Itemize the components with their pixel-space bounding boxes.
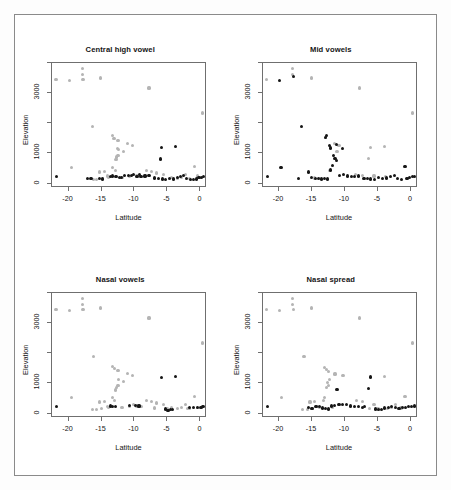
- data-point-absent: [113, 399, 116, 402]
- x-tick-label: -15: [299, 194, 323, 203]
- x-tick-mark: [311, 187, 312, 191]
- plot-area: [51, 62, 206, 187]
- panel-title: Nasal spread: [226, 275, 437, 284]
- data-point-absent: [103, 170, 106, 173]
- y-tick-mark: [47, 183, 51, 184]
- y-axis-label: Elevation: [232, 344, 241, 374]
- x-axis-label: Latitude: [262, 213, 417, 222]
- data-point-absent: [201, 341, 204, 344]
- x-tick-mark: [410, 187, 411, 191]
- data-point-absent: [145, 169, 148, 172]
- data-point-absent: [68, 309, 71, 312]
- data-point-absent: [372, 403, 375, 406]
- y-tick-mark: [47, 292, 51, 293]
- data-point-absent: [92, 355, 95, 358]
- data-point-present: [266, 175, 269, 178]
- data-point-absent: [98, 400, 101, 403]
- data-point-absent: [91, 408, 94, 411]
- data-point-absent: [302, 355, 305, 358]
- data-point-absent: [176, 407, 179, 410]
- data-point-absent: [98, 170, 101, 173]
- panel-title: Nasal vowels: [15, 275, 226, 284]
- x-tick-label: -10: [332, 194, 356, 203]
- panel-title: Central high vowel: [15, 45, 226, 54]
- data-point-present: [342, 173, 345, 176]
- y-tick-mark: [47, 322, 51, 323]
- y-tick-mark: [258, 352, 262, 353]
- panel-title: Mid vowels: [226, 45, 437, 54]
- y-tick-mark: [47, 92, 51, 93]
- data-point-absent: [117, 148, 120, 151]
- x-tick-label: -15: [89, 194, 113, 203]
- data-point-absent: [145, 399, 148, 402]
- data-point-present: [326, 177, 329, 180]
- y-tick-mark: [258, 183, 262, 184]
- data-point-absent: [383, 145, 386, 148]
- data-point-absent: [122, 380, 125, 383]
- data-point-absent: [358, 86, 361, 89]
- data-point-present: [396, 177, 399, 180]
- data-point-absent: [184, 403, 187, 406]
- data-point-absent: [411, 111, 414, 114]
- panel-grid: Central high vowel -20-15-10-50Latitude0…: [15, 15, 436, 475]
- x-tick-label: -10: [121, 194, 145, 203]
- data-point-present: [160, 146, 163, 149]
- plot-area: [262, 292, 417, 417]
- data-point-absent: [126, 372, 129, 375]
- data-point-present: [389, 175, 392, 178]
- data-point-present: [338, 174, 341, 177]
- data-point-present: [168, 177, 171, 180]
- y-tick-mark: [47, 382, 51, 383]
- y-tick-mark: [47, 152, 51, 153]
- data-point-absent: [335, 150, 338, 153]
- data-point-absent: [155, 171, 158, 174]
- x-tick-mark: [101, 417, 102, 421]
- data-point-absent: [54, 78, 57, 81]
- data-point-present: [101, 177, 104, 180]
- y-tick-mark: [258, 92, 262, 93]
- data-point-present: [357, 405, 360, 408]
- data-point-absent: [116, 369, 119, 372]
- data-point-absent: [81, 78, 84, 81]
- y-axis-label: Elevation: [21, 344, 30, 374]
- y-tick-label: 0: [32, 401, 41, 423]
- panel-nasal-vowels: Nasal vowels -20-15-10-50Latitude0100030…: [15, 245, 226, 475]
- data-point-present: [137, 404, 140, 407]
- data-point-present: [367, 387, 370, 390]
- data-point-absent: [265, 308, 268, 311]
- data-point-present: [132, 173, 135, 176]
- data-point-absent: [292, 308, 295, 311]
- x-tick-mark: [377, 417, 378, 421]
- data-point-present: [128, 404, 131, 407]
- y-tick-label: 1000: [242, 371, 251, 393]
- y-tick-label: 0: [242, 171, 251, 193]
- x-tick-label: 0: [398, 424, 422, 433]
- x-tick-mark: [101, 187, 102, 191]
- x-tick-label: -20: [266, 424, 290, 433]
- x-tick-label: -15: [89, 424, 113, 433]
- panel-nasal-spread: Nasal spread -20-15-10-50Latitude0100030…: [226, 245, 437, 475]
- data-point-present: [329, 146, 332, 149]
- data-point-absent: [81, 73, 84, 76]
- y-tick-mark: [47, 122, 51, 123]
- data-point-present: [327, 407, 330, 410]
- data-point-present: [159, 157, 162, 160]
- data-point-absent: [114, 158, 117, 161]
- x-tick-label: -5: [365, 424, 389, 433]
- data-point-present: [114, 405, 117, 408]
- data-point-present: [310, 176, 313, 179]
- data-point-present: [278, 79, 281, 82]
- x-tick-mark: [199, 187, 200, 191]
- x-axis-label: Latitude: [262, 443, 417, 452]
- data-point-absent: [310, 306, 313, 309]
- data-point-present: [413, 175, 416, 178]
- data-point-present: [335, 388, 338, 391]
- data-point-present: [363, 405, 366, 408]
- data-point-absent: [358, 316, 361, 319]
- y-tick-label: 0: [242, 401, 251, 423]
- data-point-absent: [193, 165, 196, 168]
- data-point-absent: [327, 370, 330, 373]
- data-point-absent: [81, 67, 84, 70]
- x-tick-mark: [133, 187, 134, 191]
- data-point-absent: [367, 157, 370, 160]
